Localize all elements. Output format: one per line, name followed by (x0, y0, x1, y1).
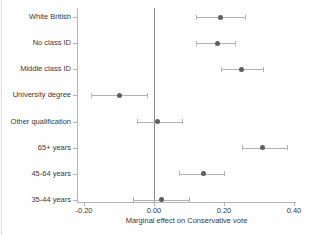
ci-cap-left (133, 197, 134, 202)
x-tick-label: 0.00 (138, 206, 170, 215)
zero-reference-line (154, 8, 155, 202)
ci-cap-right (147, 93, 148, 98)
y-axis-tick (73, 122, 77, 123)
category-label: Middle class ID (0, 64, 71, 73)
y-axis-tick (73, 69, 77, 70)
x-tick-label: -0.20 (68, 206, 100, 215)
ci-cap-right (245, 15, 246, 20)
y-axis-tick (73, 17, 77, 18)
x-tick-label: 0.40 (278, 206, 310, 215)
ci-cap-left (242, 145, 243, 150)
y-axis-line (77, 8, 78, 202)
point-marker (239, 67, 244, 72)
category-label: University degree (0, 90, 71, 99)
y-axis-tick (73, 148, 77, 149)
category-label: White British (0, 12, 71, 21)
ci-cap-left (91, 93, 92, 98)
y-axis-tick (73, 95, 77, 96)
category-label: 35-44 years (0, 195, 71, 204)
point-marker (215, 41, 220, 46)
y-axis-tick (73, 174, 77, 175)
point-marker (201, 171, 206, 176)
ci-cap-right (189, 197, 190, 202)
x-axis-title: Marginal effect on Conservative vote (77, 216, 296, 225)
ci-cap-right (182, 119, 183, 124)
y-axis-tick (73, 43, 77, 44)
ci-cap-left (221, 67, 222, 72)
point-marker (260, 145, 265, 150)
ci-cap-right (235, 41, 236, 46)
category-label: Other qualification (0, 117, 71, 126)
point-marker (117, 93, 122, 98)
x-axis-line (77, 202, 296, 203)
x-tick-label: 0.20 (208, 206, 240, 215)
ci-cap-left (137, 119, 138, 124)
point-marker (218, 15, 223, 20)
category-label: 45-64 years (0, 169, 71, 178)
chart-area: -0.200.000.200.40White BritishNo class I… (0, 0, 311, 235)
ci-cap-left (196, 15, 197, 20)
category-label: No class ID (0, 38, 71, 47)
ci-cap-left (196, 41, 197, 46)
ci-cap-right (263, 67, 264, 72)
y-axis-tick (73, 200, 77, 201)
ci-cap-right (224, 171, 225, 176)
ci-cap-left (179, 171, 180, 176)
category-label: 65+ years (0, 143, 71, 152)
ci-cap-right (287, 145, 288, 150)
coefficient-plot-figure: -0.200.000.200.40White BritishNo class I… (0, 0, 311, 235)
point-marker (155, 119, 160, 124)
